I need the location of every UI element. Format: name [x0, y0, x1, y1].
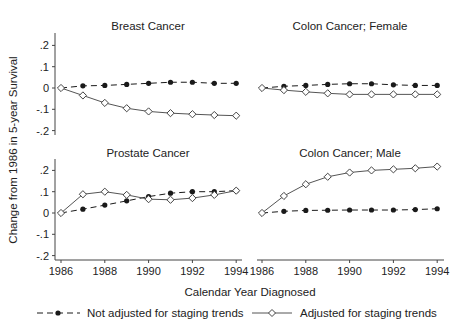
data-point-not-adjusted — [212, 81, 217, 86]
data-point-not-adjusted — [347, 207, 352, 212]
panel-colon-cancer-male: Colon Cancer; Male19861988199019921994 — [250, 147, 450, 277]
x-tick-label: 1986 — [49, 265, 73, 277]
data-point-not-adjusted — [435, 206, 440, 211]
data-point-adjusted — [302, 181, 309, 188]
data-point-adjusted — [346, 169, 353, 176]
data-point-adjusted — [368, 167, 375, 174]
panel-colon-cancer-female: Colon Cancer; Female — [258, 20, 440, 98]
y-tick-label: 0 — [43, 207, 49, 219]
data-point-adjusted — [233, 112, 240, 119]
panel-title: Prostate Cancer — [106, 147, 189, 159]
legend-filled-circle-icon — [55, 310, 60, 315]
data-point-not-adjusted — [369, 81, 374, 86]
x-tick-label: 1990 — [136, 265, 160, 277]
data-point-not-adjusted — [325, 208, 330, 213]
panel-title: Colon Cancer; Female — [292, 20, 407, 32]
x-tick-label: 1990 — [337, 265, 361, 277]
y-axis-label: Change from 1986 in 5-year Survival — [7, 56, 19, 243]
x-tick-label: 1994 — [224, 265, 248, 277]
legend-label-adjusted: Adjusted for staging trends — [300, 307, 437, 319]
y-tick-label: -.2 — [36, 250, 49, 262]
x-tick-label: 1992 — [381, 265, 405, 277]
x-tick-label: 1992 — [180, 265, 204, 277]
data-point-adjusted — [79, 92, 86, 99]
x-tick-label: 1986 — [250, 265, 274, 277]
y-tick-label: -.1 — [36, 228, 49, 240]
data-point-not-adjusted — [281, 209, 286, 214]
data-point-adjusted — [123, 105, 130, 112]
data-point-adjusted — [211, 191, 218, 198]
data-point-not-adjusted — [303, 83, 308, 88]
data-point-adjusted — [233, 187, 240, 194]
data-point-not-adjusted — [80, 83, 85, 88]
data-point-adjusted — [258, 84, 265, 91]
data-point-adjusted — [123, 191, 130, 198]
legend-item-adjusted: Adjusted for staging trends — [252, 307, 437, 319]
data-point-adjusted — [211, 111, 218, 118]
data-point-adjusted — [167, 110, 174, 117]
data-point-adjusted — [302, 88, 309, 95]
y-tick-label: .1 — [40, 61, 49, 73]
data-point-not-adjusted — [124, 82, 129, 87]
x-tick-label: 1988 — [294, 265, 318, 277]
data-point-not-adjusted — [347, 81, 352, 86]
data-point-adjusted — [434, 91, 441, 98]
data-point-not-adjusted — [190, 189, 195, 194]
data-point-not-adjusted — [80, 207, 85, 212]
x-tick-label: 1988 — [93, 265, 117, 277]
data-point-adjusted — [324, 90, 331, 97]
data-point-not-adjusted — [325, 82, 330, 87]
y-tick-label: -.2 — [36, 125, 49, 137]
data-point-not-adjusted — [435, 83, 440, 88]
data-point-not-adjusted — [102, 203, 107, 208]
data-point-not-adjusted — [413, 83, 418, 88]
data-point-adjusted — [368, 91, 375, 98]
x-axis-label: Calendar Year Diagnosed — [184, 286, 315, 298]
y-tick-label: .2 — [40, 164, 49, 176]
data-point-adjusted — [434, 163, 441, 170]
data-point-not-adjusted — [413, 207, 418, 212]
data-point-not-adjusted — [303, 208, 308, 213]
data-point-adjusted — [346, 91, 353, 98]
data-point-not-adjusted — [168, 191, 173, 196]
panel-breast-cancer: Breast Cancer.2.10-.1-.2 — [36, 20, 240, 137]
data-point-adjusted — [412, 91, 419, 98]
data-point-adjusted — [57, 84, 64, 91]
data-point-adjusted — [390, 91, 397, 98]
y-tick-label: .1 — [40, 186, 49, 198]
data-point-not-adjusted — [168, 80, 173, 85]
data-point-not-adjusted — [102, 83, 107, 88]
data-point-not-adjusted — [391, 207, 396, 212]
panel-title: Breast Cancer — [111, 20, 185, 32]
data-point-not-adjusted — [146, 81, 151, 86]
legend-item-not-adjusted: Not adjusted for staging trends — [37, 307, 244, 319]
y-tick-label: .2 — [40, 39, 49, 51]
chart-canvas: Change from 1986 in 5-year Survival Cale… — [0, 0, 466, 334]
data-point-adjusted — [101, 188, 108, 195]
data-point-adjusted — [189, 194, 196, 201]
data-point-not-adjusted — [391, 82, 396, 87]
data-point-not-adjusted — [190, 80, 195, 85]
legend-hollow-diamond-icon — [269, 310, 276, 317]
y-tick-label: 0 — [43, 82, 49, 94]
data-point-not-adjusted — [234, 81, 239, 86]
data-point-adjusted — [189, 111, 196, 118]
legend: Not adjusted for staging trends Adjusted… — [37, 307, 437, 319]
data-point-adjusted — [101, 99, 108, 106]
x-tick-label: 1994 — [425, 265, 449, 277]
data-point-adjusted — [390, 166, 397, 173]
y-tick-label: -.1 — [36, 103, 49, 115]
data-point-adjusted — [167, 196, 174, 203]
panel-prostate-cancer: Prostate Cancer.2.10-.1-.219861988199019… — [36, 147, 248, 277]
data-point-adjusted — [324, 173, 331, 180]
data-point-adjusted — [280, 87, 287, 94]
data-point-adjusted — [412, 165, 419, 172]
legend-label-not-adjusted: Not adjusted for staging trends — [87, 307, 244, 319]
data-point-adjusted — [145, 108, 152, 115]
panel-title: Colon Cancer; Male — [299, 147, 401, 159]
chart-figure: Change from 1986 in 5-year Survival Cale… — [0, 0, 466, 334]
data-point-not-adjusted — [369, 207, 374, 212]
